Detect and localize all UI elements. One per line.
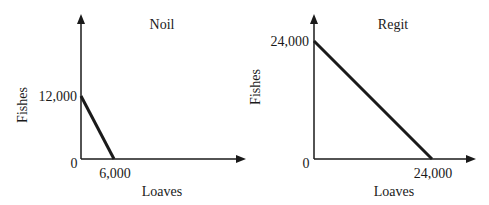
ppf-charts: Noil 12,000 0 6,000 Loaves Fishes Regit … xyxy=(0,0,489,205)
chart-title: Regit xyxy=(378,17,408,32)
chart-title: Noil xyxy=(150,17,175,32)
x-axis-arrow-icon xyxy=(466,155,476,163)
chart-regit: Regit 24,000 0 24,000 Loaves Fishes xyxy=(248,14,476,199)
y-axis-label: Fishes xyxy=(15,87,30,123)
y-tick-label: 12,000 xyxy=(39,89,78,104)
origin-label: 0 xyxy=(71,156,78,171)
x-tick-label: 24,000 xyxy=(414,166,453,181)
x-axis-arrow-icon xyxy=(236,155,246,163)
x-axis-label: Loaves xyxy=(142,184,182,199)
y-axis-arrow-icon xyxy=(310,14,318,24)
origin-label: 0 xyxy=(303,156,310,171)
y-tick-label: 24,000 xyxy=(271,34,310,49)
x-tick-label: 6,000 xyxy=(99,166,131,181)
y-axis-arrow-icon xyxy=(77,14,85,24)
y-axis-label: Fishes xyxy=(248,69,263,105)
ppf-line xyxy=(314,41,432,159)
chart-noil: Noil 12,000 0 6,000 Loaves Fishes xyxy=(15,14,246,199)
x-axis-label: Loaves xyxy=(374,184,414,199)
ppf-line xyxy=(81,96,114,159)
